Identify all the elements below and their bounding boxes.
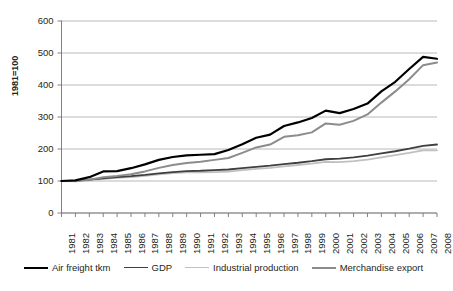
legend-item-merchandise-export[interactable]: Merchandise export	[312, 262, 423, 273]
legend-swatch-icon	[185, 267, 209, 268]
legend-item-industrial-production[interactable]: Industrial production	[185, 262, 299, 273]
legend-label: Air freight tkm	[52, 262, 111, 273]
series-line-air-freight-tkm	[62, 57, 438, 181]
legend-item-air-freight-tkm[interactable]: Air freight tkm	[24, 262, 111, 273]
legend-swatch-icon	[312, 267, 336, 269]
series-line-merchandise-export	[62, 63, 438, 181]
legend-item-gdp[interactable]: GDP	[124, 262, 173, 273]
legend-swatch-icon	[24, 267, 48, 269]
legend-swatch-icon	[124, 267, 148, 268]
legend-label: Industrial production	[213, 262, 299, 273]
legend-label: GDP	[152, 262, 173, 273]
legend-label: Merchandise export	[340, 262, 423, 273]
chart-legend: Air freight tkmGDPIndustrial productionM…	[0, 262, 447, 273]
